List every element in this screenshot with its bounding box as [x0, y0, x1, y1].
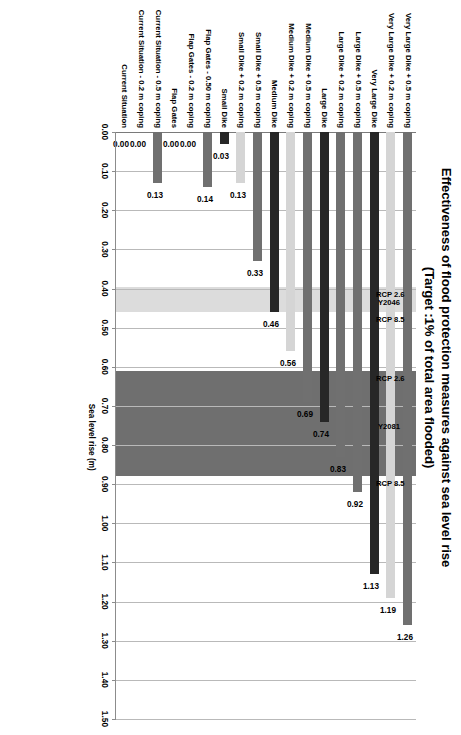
chart-subtitle: (Target :1% of total area flooded) [421, 0, 438, 735]
band-label-y2046-name: Y2046 [378, 298, 400, 307]
bar-value-label: 0.83 [330, 465, 346, 474]
band-label-y2081-lower: RCP 2.6 [376, 374, 405, 383]
category-label: Small Dike + 0.5 m coping [253, 32, 262, 128]
category-label: Small Dike + 0.2 m coping [237, 32, 246, 128]
bar-value-label: 0.13 [147, 191, 163, 200]
x-axis-line [115, 132, 116, 719]
category-label: Medium Dike + 0.2 m coping [287, 23, 296, 128]
bar-row [303, 132, 312, 719]
category-label: Large Dike + 0.2 m coping [337, 32, 346, 128]
bar[interactable] [220, 132, 229, 144]
chart-title: Effectiveness of flood protection measur… [421, 0, 455, 735]
tick-label-0.70: 0.70 [100, 398, 110, 414]
bar-value-label: 0.00 [180, 140, 196, 149]
bar-value-label: 0.14 [197, 195, 213, 204]
bar-value-label: 0.03 [213, 152, 229, 161]
category-label: Very Large Dike + 0.5 m coping [403, 13, 412, 128]
category-label: Current Situation - 0.5 m coping [153, 10, 162, 128]
bar-value-label: 0.74 [313, 430, 329, 439]
bar-series: 1.261.191.130.920.830.740.690.560.460.33… [116, 132, 416, 719]
tick-label-0.30: 0.30 [100, 241, 110, 257]
category-label: Flap Gates - 0.2 m coping [187, 34, 196, 128]
tick-label-0.80: 0.80 [100, 437, 110, 453]
tick-label-0.10: 0.10 [100, 163, 110, 179]
bar[interactable] [203, 132, 212, 187]
bar-row [253, 132, 262, 719]
category-label: Small Dike [220, 89, 229, 128]
tick-mark [112, 719, 116, 720]
bar-value-label: 0.13 [230, 191, 246, 200]
gridline-1.50 [116, 719, 416, 720]
bar-value-label: 0.33 [247, 269, 263, 278]
bar-row [320, 132, 329, 719]
tick-label-1.20: 1.20 [100, 593, 110, 609]
bar[interactable] [253, 132, 262, 261]
tick-label-0.40: 0.40 [100, 280, 110, 296]
category-label: Large Dike + 0.5 m coping [353, 32, 362, 128]
bar-value-label: 1.13 [363, 582, 379, 591]
category-label: Flap Gates [170, 88, 179, 128]
tick-label-1.50: 1.50 [100, 711, 110, 727]
category-label: Medium Dike + 0.5 m coping [303, 23, 312, 128]
bar-row [203, 132, 212, 719]
bar[interactable] [387, 132, 396, 598]
bar-row [287, 132, 296, 719]
bar-row [120, 132, 129, 719]
bar[interactable] [303, 132, 312, 402]
tick-label-1.00: 1.00 [100, 515, 110, 531]
category-label: Current Situation [120, 64, 129, 128]
bar-row [153, 132, 162, 719]
tick-label-1.10: 1.10 [100, 554, 110, 570]
bar-value-label: 1.19 [380, 606, 396, 615]
bar[interactable] [353, 132, 362, 492]
tick-label-0.20: 0.20 [100, 202, 110, 218]
category-label: Very Large Dike [370, 69, 379, 128]
tick-label-1.40: 1.40 [100, 672, 110, 688]
band-label-y2046-upper: RCP 8.5 [376, 315, 405, 324]
chart-figure-rotator: Effectiveness of flood protection measur… [0, 0, 461, 735]
tick-label-0.50: 0.50 [100, 320, 110, 336]
bar-row [353, 132, 362, 719]
bar[interactable] [153, 132, 162, 183]
band-label-y2081-name: Y2081 [378, 422, 400, 431]
tick-label-0.00: 0.00 [100, 124, 110, 140]
band-label-y2081-upper: RCP 8.5 [376, 479, 405, 488]
bar[interactable] [370, 132, 379, 574]
bar-value-label: 0.46 [263, 320, 279, 329]
bar-row [170, 132, 179, 719]
bar[interactable] [337, 132, 346, 457]
bar[interactable] [270, 132, 279, 312]
tick-label-1.30: 1.30 [100, 633, 110, 649]
bar-value-label: 1.26 [397, 633, 413, 642]
bar-row [337, 132, 346, 719]
bar-chart-figure: Effectiveness of flood protection measur… [0, 0, 461, 735]
bar-value-label: 0.00 [130, 140, 146, 149]
category-label: Very Large Dike + 0.2 m coping [387, 13, 396, 128]
bar-row [270, 132, 279, 719]
bar-value-label: 0.56 [280, 359, 296, 368]
bar-row [403, 132, 412, 719]
x-axis-title: Sea level rise (m) [87, 404, 96, 471]
category-label: Medium Dike [270, 80, 279, 128]
bar-value-label: 0.69 [297, 410, 313, 419]
tick-label-0.90: 0.90 [100, 476, 110, 492]
bar-row [237, 132, 246, 719]
bar-value-label: 0.00 [163, 140, 179, 149]
bar-row [220, 132, 229, 719]
category-label: Current Situation - 0.2 m coping [137, 10, 146, 128]
bar-row [187, 132, 196, 719]
bar-value-label: 0.92 [347, 500, 363, 509]
bar[interactable] [287, 132, 296, 351]
category-label: Large Dike [320, 88, 329, 128]
bar[interactable] [237, 132, 246, 183]
chart-title-line1: Effectiveness of flood protection measur… [439, 168, 454, 568]
tick-label-0.60: 0.60 [100, 359, 110, 375]
bar-row [137, 132, 146, 719]
category-label: Flap Gates - 0.50 m coping [203, 29, 212, 128]
bar[interactable] [320, 132, 329, 422]
plot-area: 1.261.191.130.920.830.740.690.560.460.33… [116, 132, 416, 719]
